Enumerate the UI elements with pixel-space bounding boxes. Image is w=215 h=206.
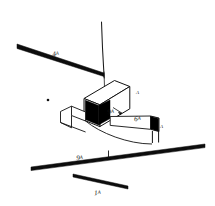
label-9a-beam-suffix: A [110, 109, 114, 114]
label-1a-suffix: A [97, 190, 100, 195]
label-9a-ground-suffix: A [79, 155, 82, 160]
beam-end-face [151, 116, 159, 131]
drawing-canvas: 4A 9A 6A 9A 1A A A [0, 0, 215, 206]
label-9a-ground: 9A [75, 147, 83, 164]
label-6a-suffix: A [137, 116, 140, 121]
label-1a: 1A [93, 182, 101, 198]
label-6a: 6A [133, 108, 141, 124]
letter-a-beam-end: A [160, 124, 163, 129]
label-4a-suffix: A [55, 50, 59, 55]
dot-marker [47, 99, 50, 102]
letter-a-box: A [136, 90, 139, 95]
